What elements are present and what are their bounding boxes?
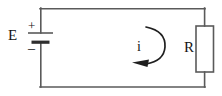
- resistor-box: [196, 26, 214, 72]
- resistor-symbol: [196, 26, 214, 72]
- voltage-source-label: E: [8, 28, 17, 43]
- battery-negative-terminal-label: –: [28, 42, 35, 56]
- current-label: i: [137, 40, 141, 54]
- circuit-diagram: E + – i R: [0, 0, 222, 96]
- current-arc-path: [146, 27, 165, 64]
- resistor-label: R: [184, 40, 194, 55]
- circuit-wires: [40, 8, 205, 87]
- battery-positive-terminal-label: +: [28, 19, 35, 32]
- current-arrowhead: [132, 60, 149, 68]
